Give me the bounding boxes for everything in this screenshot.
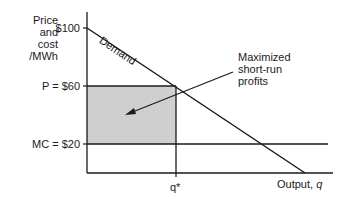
tick-label-100: $100	[40, 22, 80, 34]
tick-label-price: P = $60	[10, 80, 80, 92]
qstar-label: q*	[170, 181, 180, 193]
x-axis-label: Output, q	[277, 178, 322, 190]
tick-label-mc: MC = $20	[10, 138, 80, 150]
profit-region	[87, 86, 176, 144]
profit-annotation: Maximized short-run profits	[238, 51, 291, 87]
